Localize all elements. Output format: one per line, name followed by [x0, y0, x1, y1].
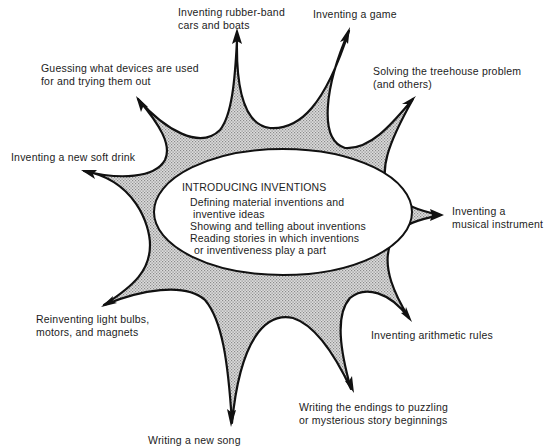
label-line: cars and boats	[178, 19, 285, 32]
label-line: Writing the endings to puzzling	[299, 401, 448, 414]
label-soft-drink: Inventing a new soft drink	[11, 151, 135, 164]
label-line: Solving the treehouse problem	[373, 65, 521, 78]
label-line: Reinventing light bulbs,	[36, 313, 149, 326]
center-item-reading: Reading stories in which inventions	[190, 232, 359, 245]
label-line: for and trying them out	[41, 75, 199, 88]
center-item-defining: Defining material inventions and	[190, 196, 344, 209]
label-line: Inventing a	[452, 205, 543, 218]
label-line: (and others)	[373, 78, 521, 91]
label-arithmetic: Inventing arithmetic rules	[371, 329, 493, 342]
arrow-icon-treehouse	[402, 96, 416, 108]
label-line: Inventing arithmetic rules	[371, 329, 493, 342]
label-line: Writing a new song	[148, 434, 241, 447]
label-line: Inventing a new soft drink	[11, 151, 135, 164]
label-game: Inventing a game	[313, 8, 397, 21]
arrow-icon-musical-instrument	[430, 209, 444, 221]
center-item-defining-cont: inventive ideas	[193, 208, 265, 221]
label-line: musical instrument	[452, 218, 543, 231]
label-musical-instrument: Inventing a musical instrument	[452, 205, 543, 231]
label-light-bulbs: Reinventing light bulbs, motors, and mag…	[36, 313, 149, 339]
label-line: or mysterious story beginnings	[299, 414, 448, 427]
label-line: Inventing rubber-band	[178, 6, 285, 19]
center-item-showing: Showing and telling about inventions	[190, 220, 366, 233]
label-treehouse: Solving the treehouse problem (and other…	[373, 65, 521, 91]
center-item-reading-cont: or inventiveness play a part	[194, 244, 326, 257]
label-rubber-band: Inventing rubber-band cars and boats	[178, 6, 285, 32]
label-guessing-devices: Guessing what devices are used for and t…	[41, 62, 199, 88]
label-line: Inventing a game	[313, 8, 397, 21]
label-new-song: Writing a new song	[148, 434, 241, 447]
label-line: motors, and magnets	[36, 326, 149, 339]
center-title: INTRODUCING INVENTIONS	[182, 181, 326, 194]
label-story-endings: Writing the endings to puzzling or myste…	[299, 401, 448, 427]
label-line: Guessing what devices are used	[41, 62, 199, 75]
